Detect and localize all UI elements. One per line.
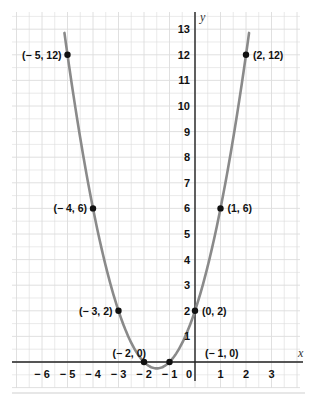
y-tick-label: 12 <box>178 49 190 61</box>
y-tick-label: 11 <box>178 74 190 86</box>
data-point-label: (0, 2) <box>202 305 227 317</box>
y-tick-label: 13 <box>178 23 190 35</box>
y-tick-label: 1 <box>184 330 190 342</box>
x-axis-label: x <box>297 346 304 360</box>
x-tick-label: − 1 <box>162 368 178 380</box>
data-point-marker <box>90 205 96 211</box>
data-point-label: (− 1, 0) <box>205 347 239 359</box>
data-point-label: (− 2, 0) <box>112 347 146 359</box>
data-point-label: (− 4, 6) <box>53 202 87 214</box>
data-point-marker <box>192 308 198 314</box>
data-point-label: (2, 12) <box>253 49 283 61</box>
x-tick-label: − 3 <box>111 368 127 380</box>
data-point-marker <box>64 52 70 58</box>
y-tick-label: 7 <box>184 177 190 189</box>
x-tick-label: 0 <box>186 368 192 380</box>
y-axis-label: y <box>199 10 206 24</box>
data-point-marker <box>141 359 147 365</box>
data-points: (− 5, 12)(2, 12)(− 4, 6)(1, 6)(− 3, 2)(0… <box>22 49 283 365</box>
x-tick-label: 3 <box>268 368 274 380</box>
y-tick-label: 9 <box>184 126 190 138</box>
y-tick-label: 5 <box>184 228 190 240</box>
x-tick-label: 2 <box>243 368 249 380</box>
x-tick-label: − 6 <box>34 368 50 380</box>
y-tick-label: 3 <box>184 279 190 291</box>
y-tick-label: 8 <box>184 151 190 163</box>
data-point-label: (− 3, 2) <box>79 305 113 317</box>
grid-lines <box>12 12 300 388</box>
data-point-label: (− 5, 12) <box>22 49 61 61</box>
data-point-label: (1, 6) <box>228 202 253 214</box>
data-point-marker <box>243 52 249 58</box>
y-tick-label: 10 <box>178 100 190 112</box>
data-point-marker <box>115 308 121 314</box>
parabola-chart: xy (− 5, 12)(2, 12)(− 4, 6)(1, 6)(− 3, 2… <box>0 0 313 396</box>
data-point-marker <box>166 359 172 365</box>
x-tick-label: − 2 <box>136 368 152 380</box>
data-point-marker <box>217 205 223 211</box>
y-tick-label: 2 <box>184 305 190 317</box>
x-tick-label: 1 <box>217 368 223 380</box>
x-tick-label: − 5 <box>60 368 76 380</box>
y-tick-label: 6 <box>184 202 190 214</box>
x-tick-label: − 4 <box>85 368 101 380</box>
y-tick-label: 4 <box>184 254 191 266</box>
